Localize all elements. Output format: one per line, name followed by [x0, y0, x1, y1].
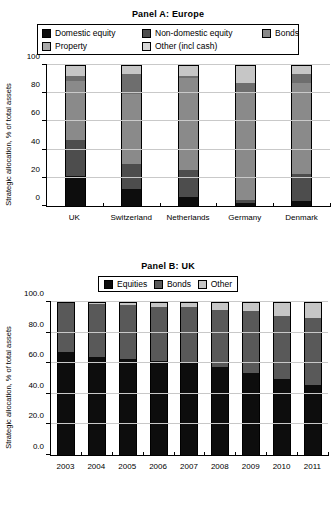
panel-a-x-tick-labels: UKSwitzerlandNetherlandsGermanyDenmark: [46, 209, 330, 229]
y-tick-mark: [46, 301, 51, 302]
panel-a-axis-area: 020406080100 UKSwitzerlandNetherlandsGer…: [46, 59, 330, 229]
bar-segment[interactable]: [119, 359, 137, 455]
x-tick-label: 2009: [236, 458, 266, 471]
y-tick-label: 20: [31, 164, 40, 173]
x-tick-mark: [50, 452, 51, 456]
bar-segment[interactable]: [121, 65, 142, 74]
panel-a-legend-label: Property: [55, 41, 87, 51]
panel-b-plot-wrap: Strategic allocation, % of total assets …: [0, 296, 336, 478]
legend-swatch-icon: [262, 29, 271, 38]
y-tick-mark: [42, 149, 47, 150]
bar-segment[interactable]: [180, 307, 198, 361]
bar-segment[interactable]: [273, 379, 291, 455]
bar-segment[interactable]: [211, 367, 229, 455]
bar-segment[interactable]: [57, 352, 75, 455]
bar-segment[interactable]: [235, 83, 256, 91]
bar-segment[interactable]: [150, 361, 168, 455]
y-tick-label: 40.0: [28, 380, 44, 389]
bar-segment[interactable]: [121, 94, 142, 164]
bar-segment[interactable]: [178, 65, 199, 76]
y-tick-label: 0: [36, 193, 40, 202]
bar-segment[interactable]: [291, 83, 312, 175]
panel-a-bars: [47, 65, 330, 206]
y-tick-mark: [42, 120, 47, 121]
bar-column[interactable]: [65, 65, 86, 206]
x-tick-mark: [235, 452, 236, 456]
bar-segment[interactable]: [88, 357, 106, 455]
bar-segment[interactable]: [273, 316, 291, 379]
bar-column[interactable]: [150, 302, 168, 455]
bar-segment[interactable]: [121, 74, 142, 94]
bar-column[interactable]: [180, 302, 198, 455]
bar-segment[interactable]: [242, 311, 260, 373]
gridline: [51, 301, 328, 302]
x-tick-label: 2007: [174, 458, 204, 471]
bar-segment[interactable]: [304, 318, 322, 385]
bar-column[interactable]: [242, 302, 260, 455]
x-tick-label: Switzerland: [107, 209, 155, 222]
panel-b-legend-item-2: Other: [198, 279, 232, 289]
bar-segment[interactable]: [291, 74, 312, 83]
bar-column[interactable]: [304, 302, 322, 455]
x-tick-label: UK: [50, 209, 98, 222]
bar-column[interactable]: [211, 302, 229, 455]
y-tick-mark: [46, 332, 51, 333]
y-tick-label: 20.0: [28, 411, 44, 420]
x-tick-mark: [330, 203, 331, 207]
gridline: [47, 120, 330, 121]
y-tick-mark: [46, 423, 51, 424]
bar-segment[interactable]: [150, 307, 168, 361]
panel-a-y-axis-label: Strategic allocation, % of total assets: [2, 59, 14, 229]
bar-column[interactable]: [291, 65, 312, 206]
bar-column[interactable]: [178, 65, 199, 206]
y-tick-mark: [46, 362, 51, 363]
bar-column[interactable]: [235, 65, 256, 206]
bar-segment[interactable]: [57, 302, 75, 352]
bar-segment[interactable]: [242, 373, 260, 455]
bar-segment[interactable]: [242, 302, 260, 311]
panel-b-plot: 0.020.040.060.080.0100.0: [50, 302, 328, 456]
x-tick-mark: [273, 203, 274, 207]
gridline: [47, 177, 330, 178]
bar-segment[interactable]: [178, 170, 199, 197]
bar-column[interactable]: [119, 302, 137, 455]
bar-column[interactable]: [57, 302, 75, 455]
bar-segment[interactable]: [304, 385, 322, 455]
bar-column[interactable]: [88, 302, 106, 455]
bar-segment[interactable]: [235, 65, 256, 83]
x-tick-mark: [216, 203, 217, 207]
y-tick-label: 80: [31, 80, 40, 89]
bar-column[interactable]: [121, 65, 142, 206]
x-tick-label: 2004: [81, 458, 111, 471]
x-tick-label: 2005: [112, 458, 142, 471]
bar-segment[interactable]: [65, 176, 86, 206]
x-tick-mark: [328, 452, 329, 456]
bar-segment[interactable]: [304, 302, 322, 318]
bar-segment[interactable]: [291, 65, 312, 73]
legend-swatch-icon: [104, 280, 113, 289]
x-tick-mark: [103, 203, 104, 207]
bar-segment[interactable]: [273, 302, 291, 316]
y-tick-label: 60.0: [28, 350, 44, 359]
panel-b-legend: EquitiesBondsOther: [98, 276, 238, 292]
bar-column[interactable]: [273, 302, 291, 455]
panel-a-legend-label: Bonds: [275, 28, 299, 38]
bar-segment[interactable]: [65, 81, 86, 140]
bar-segment[interactable]: [65, 140, 86, 177]
panel-a-legend-label: Domestic equity: [55, 28, 115, 38]
x-tick-label: 2006: [143, 458, 173, 471]
bar-segment[interactable]: [291, 174, 312, 201]
x-tick-mark: [297, 452, 298, 456]
panel-a-plot: 020406080100: [46, 65, 330, 207]
bar-segment[interactable]: [211, 302, 229, 310]
bar-segment[interactable]: [235, 92, 256, 200]
panel-b-y-axis-label: Strategic allocation, % of total assets: [2, 296, 14, 478]
y-tick-mark: [42, 177, 47, 178]
bar-segment[interactable]: [180, 362, 198, 455]
bar-segment[interactable]: [211, 310, 229, 367]
gridline: [51, 332, 328, 333]
gridline: [47, 92, 330, 93]
panel-b-y-axis-label-text: Strategic allocation, % of total assets: [4, 326, 13, 449]
bar-segment[interactable]: [65, 65, 86, 76]
legend-swatch-icon: [142, 29, 151, 38]
